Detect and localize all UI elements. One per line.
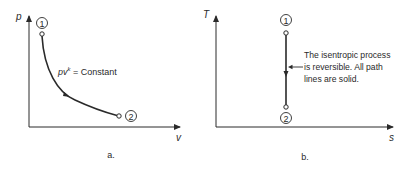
state-1-label: 1 xyxy=(283,16,288,26)
s-axis-label: s xyxy=(389,132,394,143)
annotation-line-2: is reversible. All path xyxy=(304,62,383,72)
state-2-marker: 2 xyxy=(126,111,137,122)
annotation-line-3: lines are solid. xyxy=(304,74,359,84)
t-axis-label: T xyxy=(203,9,210,20)
state-1-node xyxy=(284,31,288,35)
thermo-diagrams: p v 1 2 pvk = Constant a. T s xyxy=(0,0,417,170)
caption-a: a. xyxy=(107,150,115,160)
equation-rest: = Constant xyxy=(71,67,118,77)
state-2-label: 2 xyxy=(283,114,288,124)
state-2-label: 2 xyxy=(128,112,133,122)
annotation-text: The isentropic process is reversible. Al… xyxy=(304,50,390,84)
state-1-marker: 1 xyxy=(281,15,292,26)
direction-arrow-icon xyxy=(284,71,289,77)
state-2-node xyxy=(284,105,288,109)
v-axis-label: v xyxy=(176,132,182,143)
caption-b: b. xyxy=(301,152,309,162)
equation-base: pv xyxy=(57,67,68,77)
state-1-node xyxy=(40,32,44,36)
equation-label: pvk = Constant xyxy=(57,66,117,77)
diagram-a-pv: p v 1 2 pvk = Constant a. xyxy=(15,11,182,160)
annotation-line-1: The isentropic process xyxy=(304,50,390,60)
p-axis-label: p xyxy=(15,11,22,22)
state-1-label: 1 xyxy=(39,19,44,29)
diagram-b-ts: T s 1 2 The isentropic process is revers… xyxy=(203,9,394,162)
state-1-marker: 1 xyxy=(37,18,48,29)
direction-arrow-icon xyxy=(63,92,70,97)
state-2-node xyxy=(117,114,121,118)
state-2-marker: 2 xyxy=(281,113,292,124)
leader-arrow-icon xyxy=(288,65,293,69)
